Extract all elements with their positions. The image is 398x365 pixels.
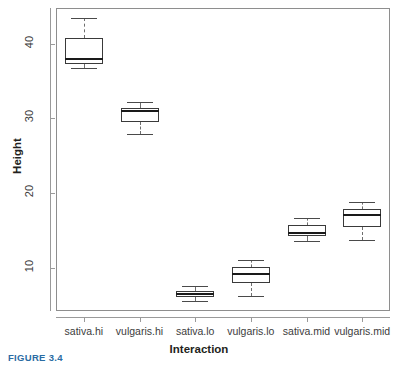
plot-frame <box>56 8 390 311</box>
y-tick-40 <box>50 44 55 45</box>
cap-upper <box>127 102 153 103</box>
x-tick-vulgaris.mid <box>362 317 363 322</box>
whisker-upper <box>84 18 86 38</box>
x-tick-sativa.lo <box>195 317 196 322</box>
median-line <box>343 214 381 216</box>
y-tick-label-40: 40 <box>23 27 35 57</box>
y-tick-20 <box>50 193 55 194</box>
y-tick-10 <box>50 268 55 269</box>
cap-upper <box>238 260 264 261</box>
x-tick-label-vulgaris.hi: vulgaris.hi <box>116 325 163 337</box>
y-tick-label-30: 30 <box>23 101 35 131</box>
cap-lower <box>127 134 153 135</box>
cap-lower <box>238 296 264 297</box>
y-axis-line <box>50 8 51 311</box>
cap-upper <box>71 18 97 19</box>
y-tick-label-10: 10 <box>23 251 35 281</box>
figure-caption: FIGURE 3.4 <box>8 352 63 364</box>
box-rect <box>343 209 381 228</box>
x-tick-vulgaris.lo <box>251 317 252 322</box>
figure-page: 10203040 Height sativa.hivulgaris.hisati… <box>0 0 398 365</box>
x-tick-label-vulgaris.mid: vulgaris.mid <box>334 325 390 337</box>
cap-lower <box>294 241 320 242</box>
cap-lower <box>349 240 375 241</box>
x-tick-label-sativa.hi: sativa.hi <box>65 325 104 337</box>
cap-lower <box>182 301 208 302</box>
x-tick-sativa.hi <box>84 317 85 322</box>
x-tick-label-sativa.mid: sativa.mid <box>283 325 330 337</box>
whisker-lower <box>140 122 142 134</box>
cap-upper <box>182 286 208 287</box>
x-tick-label-sativa.lo: sativa.lo <box>176 325 215 337</box>
cap-upper <box>294 218 320 219</box>
median-line <box>232 273 270 275</box>
whisker-upper <box>307 218 309 225</box>
median-line <box>288 232 326 234</box>
median-line <box>65 58 103 60</box>
cap-upper <box>349 202 375 203</box>
y-tick-30 <box>50 118 55 119</box>
median-line <box>121 110 159 112</box>
median-line <box>176 293 214 295</box>
whisker-lower <box>362 227 364 240</box>
x-tick-vulgaris.hi <box>140 317 141 322</box>
whisker-upper <box>251 260 253 267</box>
x-tick-sativa.mid <box>307 317 308 322</box>
whisker-lower <box>251 283 253 296</box>
cap-lower <box>71 68 97 69</box>
y-axis-title: Height <box>11 121 23 191</box>
whisker-upper <box>362 202 364 209</box>
y-tick-label-20: 20 <box>23 176 35 206</box>
x-axis-line <box>56 317 390 318</box>
x-tick-label-vulgaris.lo: vulgaris.lo <box>227 325 274 337</box>
